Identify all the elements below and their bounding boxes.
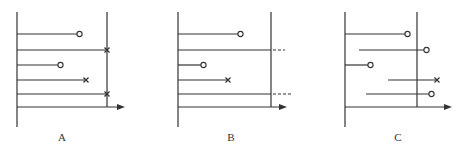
panel-b [178, 12, 293, 127]
panel-a [17, 12, 125, 127]
panel-b-label: B [227, 131, 234, 143]
circle-marker-icon [424, 47, 429, 52]
circle-marker-icon [429, 91, 434, 96]
panel-c [345, 12, 452, 127]
arrow-head-icon [117, 104, 125, 110]
circle-marker-icon [405, 31, 410, 36]
panel-c-label: C [394, 131, 401, 143]
circle-marker-icon [58, 62, 63, 67]
panel-a-label: A [58, 131, 66, 143]
circle-marker-icon [77, 31, 82, 36]
arrow-head-icon [279, 104, 287, 110]
circle-marker-icon [201, 62, 206, 67]
circle-marker-icon [368, 62, 373, 67]
arrow-head-icon [444, 104, 452, 110]
timeline-diagram: A B C [0, 0, 467, 151]
circle-marker-icon [238, 31, 243, 36]
